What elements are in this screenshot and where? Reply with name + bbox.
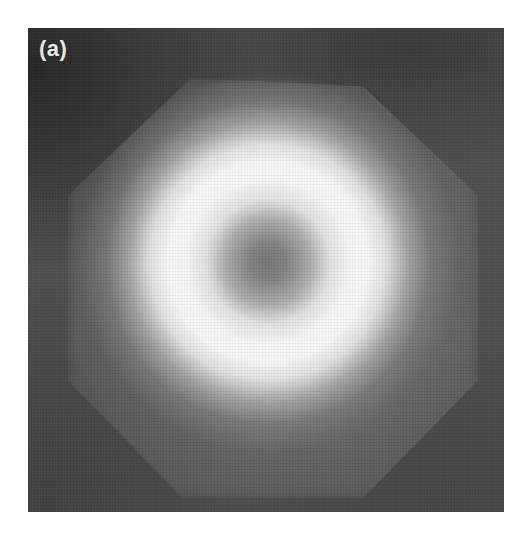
image-noise: [28, 28, 504, 512]
panel-label: (a): [39, 36, 67, 62]
figure-image: (a): [28, 28, 504, 512]
